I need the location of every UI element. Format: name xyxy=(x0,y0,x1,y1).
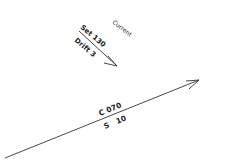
speed-label: S 10 xyxy=(102,114,127,131)
course-vector xyxy=(5,80,199,158)
vector-diagram: Current Set 130 Drift 3 C 070 S 10 xyxy=(0,0,228,165)
current-label: Current xyxy=(111,18,134,38)
current-arrowhead-icon xyxy=(104,56,117,66)
